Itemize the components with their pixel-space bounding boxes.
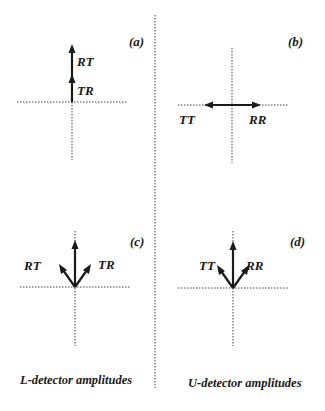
panel-b-tag: (b): [288, 34, 303, 49]
phasor-diagram: RT TR (a) TT RR (b) RT TR (c): [0, 0, 325, 411]
panel-c-rt-label: RT: [23, 258, 42, 273]
caption-right: U-detector amplitudes: [188, 376, 302, 390]
panel-b: TT RR (b): [178, 34, 303, 163]
panel-c-tr-label: TR: [98, 257, 115, 272]
panel-a-tr-label: TR: [77, 83, 94, 98]
panel-b-rr-arrowhead-icon: [252, 102, 261, 109]
panel-d-rr-arrow: [233, 271, 245, 288]
panel-c-tag: (c): [130, 234, 144, 249]
panel-a-rt-label: RT: [76, 54, 95, 69]
panel-c-sum-arrowhead-icon: [72, 240, 79, 249]
panel-a-rt-arrowhead-icon: [69, 44, 76, 53]
panel-b-tt-arrowhead-icon: [204, 102, 213, 109]
panel-d: TT RR (d): [178, 231, 305, 346]
panel-d-tt-label: TT: [199, 258, 216, 273]
panel-d-rr-label: RR: [245, 258, 264, 273]
panel-d-tt-arrow: [221, 271, 233, 288]
panel-b-rr-label: RR: [248, 112, 267, 127]
panel-c-tr-arrow: [75, 270, 87, 287]
panel-c: RT TR (c): [20, 231, 144, 346]
panel-a-tag: (a): [129, 34, 144, 49]
caption-left: L-detector amplitudes: [19, 373, 132, 387]
panel-c-rt-arrow: [63, 270, 75, 287]
panel-a: RT TR (a): [17, 34, 144, 160]
panel-d-tag: (d): [290, 234, 305, 249]
panel-b-tt-label: TT: [179, 112, 196, 127]
panel-d-sum-arrowhead-icon: [230, 241, 237, 250]
